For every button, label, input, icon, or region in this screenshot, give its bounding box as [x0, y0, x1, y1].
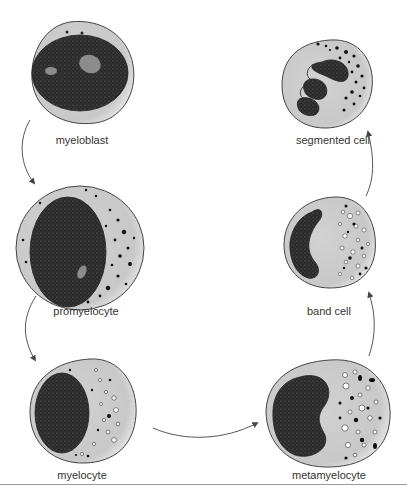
promyelocyte-cell [16, 186, 144, 310]
myelocyte-cell [30, 359, 136, 463]
maturation-diagram [0, 0, 407, 499]
band-cell [284, 197, 375, 288]
myeloblast-cell [32, 21, 134, 123]
label-band-cell: band cell [259, 305, 399, 317]
arrow-metamyelocyte-to-band-cell [369, 293, 374, 356]
arrow-myeloblast-to-promyelocyte [22, 120, 34, 183]
metamyelocyte-cell [266, 360, 390, 467]
label-metamyelocyte: metamyelocyte [259, 469, 399, 481]
arrow-myelocyte-to-metamyelocyte [153, 423, 257, 437]
label-myelocyte: myelocyte [12, 469, 152, 481]
label-segmented-cell: segmented cell [263, 134, 403, 146]
label-myeloblast: myeloblast [12, 134, 152, 146]
label-promyelocyte: promyelocyte [16, 305, 156, 317]
segmented-cell [282, 40, 372, 128]
bottom-rule [0, 484, 407, 485]
